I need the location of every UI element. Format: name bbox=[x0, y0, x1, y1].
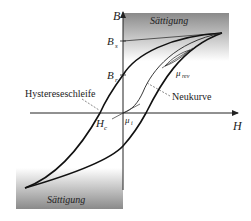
saturation-label-top: Sättigung bbox=[150, 15, 188, 26]
hysteresis-loop-label: Hystereseschleife bbox=[25, 88, 96, 99]
virgin-curve-label: Neukurve bbox=[172, 91, 212, 102]
hysteresis-diagram: B H B s B r H c Sättigung Sättigung Hyst… bbox=[0, 0, 251, 221]
br-label-sub: r bbox=[115, 76, 118, 84]
saturation-label-bottom: Sättigung bbox=[47, 194, 85, 205]
b-axis-label: B bbox=[113, 9, 121, 23]
bs-label-sub: s bbox=[115, 42, 118, 50]
mu-rev-label-sub: rev bbox=[182, 73, 190, 79]
mu-i-label-sub: i bbox=[131, 120, 133, 126]
mu-i-label: μ bbox=[124, 115, 130, 125]
h-axis-label: H bbox=[232, 119, 243, 133]
hysteresis-leader bbox=[82, 99, 99, 110]
br-label: B bbox=[107, 69, 114, 81]
hc-label-sub: c bbox=[104, 124, 108, 132]
bs-label: B bbox=[107, 35, 114, 47]
mu-rev-label: μ bbox=[175, 68, 181, 78]
